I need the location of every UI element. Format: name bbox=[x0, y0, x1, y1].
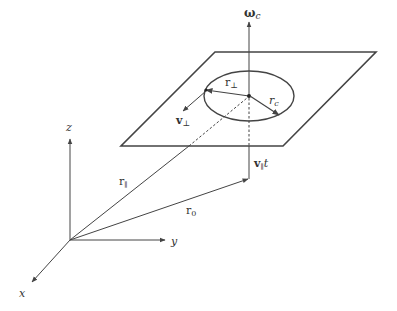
label-z-axis: z bbox=[65, 121, 72, 134]
label-x-axis: x bbox=[19, 287, 26, 300]
diagram-canvas: ωc r⊥ rc v⊥ v∥t r∥ r0 z y x bbox=[0, 0, 397, 311]
label-r-par: r∥ bbox=[119, 175, 128, 189]
r-perp-arrow bbox=[206, 90, 249, 96]
v-perp-arrow bbox=[183, 91, 206, 111]
label-y-axis: y bbox=[170, 235, 178, 248]
label-r-c: rc bbox=[269, 94, 279, 108]
label-v-par-t: v∥t bbox=[253, 157, 269, 171]
r0-vector bbox=[70, 179, 248, 240]
x-axis bbox=[32, 240, 70, 282]
r-par-vector-dashed bbox=[189, 98, 247, 146]
label-v-perp: v⊥ bbox=[175, 114, 190, 128]
label-r0: r0 bbox=[186, 204, 196, 218]
label-r-perp: r⊥ bbox=[225, 76, 238, 90]
label-omega-c: ωc bbox=[244, 6, 260, 21]
r-par-vector bbox=[70, 146, 189, 240]
